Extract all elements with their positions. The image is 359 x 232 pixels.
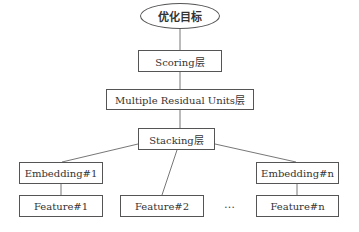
ellipsis-label: …: [224, 198, 235, 211]
stacking-layer-node: Stacking层: [138, 128, 215, 150]
objective-node: 优化目标: [140, 3, 220, 29]
stacking-layer-label: Stacking层: [149, 132, 204, 147]
scoring-layer-node: Scoring层: [138, 50, 222, 72]
feature-2-node: Feature#2: [120, 195, 204, 217]
feature-1-node: Feature#1: [19, 195, 103, 217]
embedding-1-node: Embedding#1: [19, 162, 103, 184]
ellipsis-indicator: …: [224, 198, 235, 211]
edge-stacking-feature2: [162, 150, 177, 195]
feature-2-label: Feature#2: [135, 201, 189, 212]
feature-n-label: Feature#n: [270, 201, 324, 212]
residual-units-layer-node: Multiple Residual Units层: [106, 89, 254, 110]
feature-1-label: Feature#1: [34, 201, 88, 212]
embedding-1-label: Embedding#1: [25, 168, 98, 179]
edge-stacking-embeddingn: [215, 144, 296, 162]
objective-label: 优化目标: [158, 8, 202, 24]
embedding-n-node: Embedding#n: [256, 162, 339, 184]
edge-stacking-embedding1: [62, 144, 138, 162]
embedding-n-label: Embedding#n: [261, 168, 334, 179]
residual-units-layer-label: Multiple Residual Units层: [115, 92, 245, 107]
scoring-layer-label: Scoring层: [155, 54, 204, 69]
feature-n-node: Feature#n: [256, 195, 339, 217]
